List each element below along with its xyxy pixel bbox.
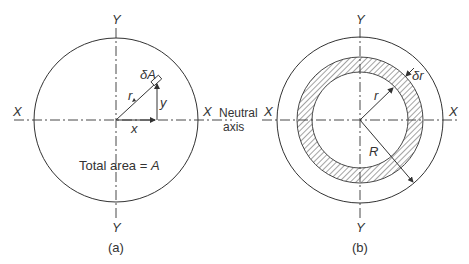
figure-a: Y Y X X δA r x y Total area = A (a) — [12, 12, 232, 255]
diagram-canvas: Y Y X X δA r x y Total area = A (a) Neut… — [0, 0, 469, 264]
label-x-left-b: X — [263, 104, 274, 119]
radius-arrow-icon — [132, 98, 136, 102]
label-y-a: y — [159, 95, 168, 110]
label-x-right-a: X — [202, 104, 213, 119]
label-y-top-a: Y — [112, 12, 122, 27]
label-x-right-b: X — [448, 104, 459, 119]
total-area-label: Total area = A — [79, 158, 160, 173]
radius-r-line — [116, 84, 155, 120]
label-x-left-a: X — [12, 104, 23, 119]
neutral-axis-label-2: axis — [223, 120, 244, 134]
label-y-top-b: Y — [356, 12, 366, 27]
label-delta-r: δr — [412, 68, 424, 83]
label-y-bottom-a: Y — [112, 220, 122, 235]
caption-a: (a) — [108, 240, 124, 255]
label-r-a: r — [128, 88, 133, 103]
label-r-b: r — [374, 88, 379, 103]
neutral-axis-label-1: Neutral — [219, 106, 258, 120]
label-R-b: R — [369, 144, 378, 159]
label-y-bottom-b: Y — [356, 220, 366, 235]
caption-b: (b) — [352, 240, 368, 255]
label-x-a: x — [130, 121, 138, 136]
label-delta-A: δA — [140, 67, 156, 82]
figure-b: Y Y X X δr r R (b) — [262, 12, 460, 255]
